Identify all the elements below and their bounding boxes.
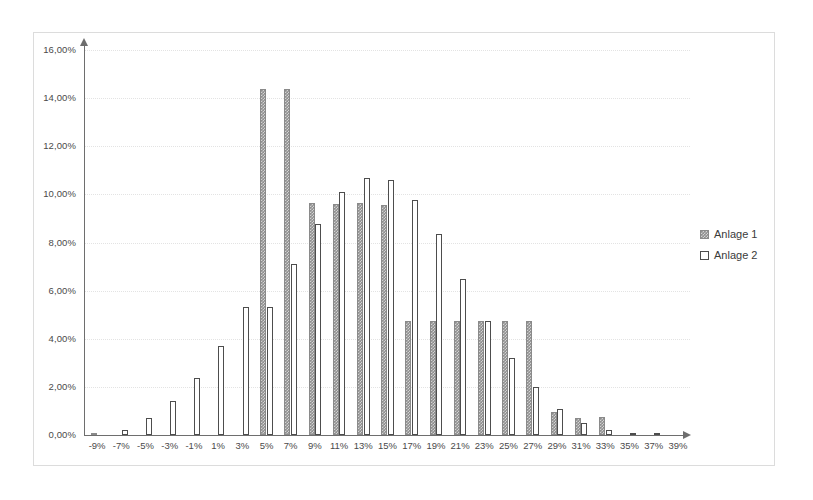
plot-area <box>85 50 690 435</box>
bar-series-1 <box>284 89 290 436</box>
bar-series-2 <box>243 307 249 435</box>
bar-series-2 <box>364 178 370 435</box>
x-axis-line <box>84 435 684 436</box>
bar-series-1 <box>454 321 460 435</box>
bar-series-2 <box>122 430 128 435</box>
y-axis-tick-label: 10,00% <box>22 188 76 199</box>
legend-item-anlage-1: Anlage 1 <box>700 228 757 240</box>
bar-series-2 <box>315 224 321 435</box>
y-axis-tick-label: 6,00% <box>22 285 76 296</box>
bar-series-1 <box>575 418 581 435</box>
bar-series-2 <box>218 346 224 435</box>
bar-series-2 <box>630 433 636 435</box>
bar-series-2 <box>460 279 466 435</box>
x-axis-tick-label: 39% <box>663 440 693 451</box>
bar-series-1 <box>430 321 436 435</box>
bar-series-2 <box>388 180 394 435</box>
y-axis-tick-label: 14,00% <box>22 92 76 103</box>
bar-series-2 <box>485 321 491 435</box>
bar-series-2 <box>339 192 345 435</box>
y-axis-tick-label: 12,00% <box>22 140 76 151</box>
bar-series-1 <box>502 321 508 435</box>
bar-series-2 <box>146 418 152 435</box>
legend-label-series-2: Anlage 2 <box>714 249 757 261</box>
bar-series-1 <box>309 203 315 435</box>
histogram-chart: 0,00%2,00%4,00%6,00%8,00%10,00%12,00%14,… <box>0 0 813 500</box>
bar-series-2 <box>509 358 515 435</box>
bar-series-2 <box>533 387 539 435</box>
y-axis-tick-label: 16,00% <box>22 44 76 55</box>
bar-series-1 <box>478 321 484 435</box>
bar-series-2 <box>436 234 442 435</box>
bar-series-2 <box>557 409 563 435</box>
bar-series-2 <box>606 430 612 435</box>
bar-series-2 <box>194 378 200 435</box>
bar-series-2 <box>412 200 418 435</box>
bar-series-2 <box>654 433 660 435</box>
bar-series-1 <box>405 321 411 435</box>
bars-layer <box>85 50 690 435</box>
bar-series-2 <box>267 307 273 435</box>
bar-series-2 <box>170 401 176 435</box>
bar-series-1 <box>333 204 339 435</box>
y-axis-tick-label: 4,00% <box>22 333 76 344</box>
bar-series-1 <box>357 203 363 435</box>
bar-series-1 <box>91 433 97 435</box>
bar-series-1 <box>381 205 387 435</box>
legend-item-anlage-2: Anlage 2 <box>700 249 757 261</box>
y-axis-tick-label: 8,00% <box>22 237 76 248</box>
bar-series-1 <box>526 321 532 435</box>
y-axis-tick-label: 2,00% <box>22 381 76 392</box>
legend-swatch-icon-series-1 <box>700 230 709 239</box>
bar-series-2 <box>291 264 297 435</box>
bar-series-1 <box>599 417 605 435</box>
bar-series-2 <box>581 423 587 435</box>
bar-series-1 <box>551 412 557 435</box>
legend-label-series-1: Anlage 1 <box>714 228 757 240</box>
bar-series-1 <box>260 89 266 436</box>
chart-legend: Anlage 1 Anlage 2 <box>700 228 757 270</box>
y-axis-tick-label: 0,00% <box>22 429 76 440</box>
y-axis-tick-labels: 0,00%2,00%4,00%6,00%8,00%10,00%12,00%14,… <box>22 0 76 500</box>
legend-swatch-icon-series-2 <box>700 251 709 260</box>
